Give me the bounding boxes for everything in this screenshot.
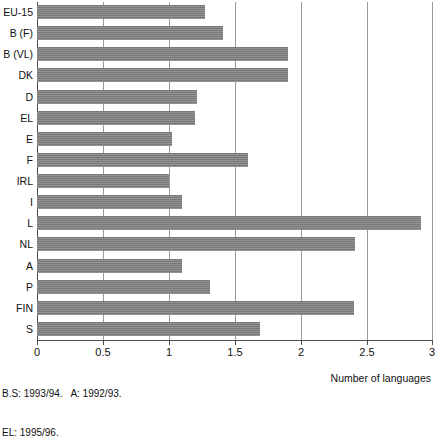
- bar: [37, 195, 182, 209]
- bar-row: [37, 108, 433, 129]
- x-axis-title: Number of languages: [331, 372, 431, 384]
- bar-row: [37, 65, 433, 86]
- bar-row: [37, 213, 433, 234]
- bar-row: [37, 298, 433, 319]
- bar-row: [37, 277, 433, 298]
- bar-row: [37, 150, 433, 171]
- y-axis-label: P: [0, 277, 33, 298]
- chart-footnotes: B.S: 1993/94. A: 1992/93. EL: 1995/96.: [2, 361, 122, 440]
- x-axis-tick: [367, 340, 368, 345]
- y-axis-label: L: [0, 213, 33, 234]
- y-axis-label: IRL: [0, 171, 33, 192]
- x-axis-tick-label: 1: [166, 346, 172, 358]
- y-axis-label: S: [0, 319, 33, 340]
- bar-row: [37, 129, 433, 150]
- footnote-line-2: EL: 1995/96.: [2, 426, 122, 439]
- bar-row: [37, 87, 433, 108]
- bar: [37, 322, 260, 336]
- bar: [37, 26, 223, 40]
- x-axis-tick: [37, 340, 38, 345]
- bar-row: [37, 256, 433, 277]
- bar: [37, 216, 421, 230]
- bar: [37, 90, 197, 104]
- bar-row: [37, 23, 433, 44]
- y-axis-label: EL: [0, 108, 33, 129]
- y-axis-label: D: [0, 87, 33, 108]
- bar: [37, 132, 172, 146]
- bar-row: [37, 234, 433, 255]
- x-axis-tick-label: 2.5: [359, 346, 374, 358]
- y-axis-label: EU-15: [0, 2, 33, 23]
- plot-area: [37, 2, 433, 340]
- bar: [37, 174, 169, 188]
- bar-row: [37, 171, 433, 192]
- y-axis-label: A: [0, 256, 33, 277]
- x-axis-tick-labels: 00.511.522.53: [0, 346, 435, 362]
- x-axis-tick-label: 0: [34, 346, 40, 358]
- bars: [37, 2, 433, 340]
- x-axis-tick: [169, 340, 170, 345]
- bar: [37, 68, 288, 82]
- bar: [37, 5, 205, 19]
- y-axis-label: I: [0, 192, 33, 213]
- y-axis-label: F: [0, 150, 33, 171]
- y-axis-label: B (VL): [0, 44, 33, 65]
- bar-row: [37, 192, 433, 213]
- y-axis-label: NL: [0, 234, 33, 255]
- bar: [37, 47, 288, 61]
- x-axis-tick: [235, 340, 236, 345]
- bar-row: [37, 2, 433, 23]
- bar-row: [37, 44, 433, 65]
- x-axis-tick-label: 1.5: [227, 346, 242, 358]
- footnote-line-1: B.S: 1993/94. A: 1992/93.: [2, 387, 122, 400]
- y-axis-label: FIN: [0, 298, 33, 319]
- y-axis-label: DK: [0, 65, 33, 86]
- x-axis-tick-label: 3: [429, 346, 435, 358]
- bar: [37, 153, 248, 167]
- x-axis-tick-label: 2: [298, 346, 304, 358]
- x-axis-tick: [103, 340, 104, 345]
- x-axis-tick: [432, 340, 433, 345]
- bar: [37, 237, 355, 251]
- x-axis-tick-label: 0.5: [95, 346, 110, 358]
- bar: [37, 280, 210, 294]
- bar: [37, 301, 354, 315]
- bar: [37, 111, 195, 125]
- y-axis-labels: EU-15B (F)B (VL)DKDELEFIRLILNLAPFINS: [0, 2, 33, 340]
- y-axis-label: E: [0, 129, 33, 150]
- x-axis-tick: [301, 340, 302, 345]
- bar: [37, 259, 182, 273]
- bar-row: [37, 319, 433, 340]
- y-axis-label: B (F): [0, 23, 33, 44]
